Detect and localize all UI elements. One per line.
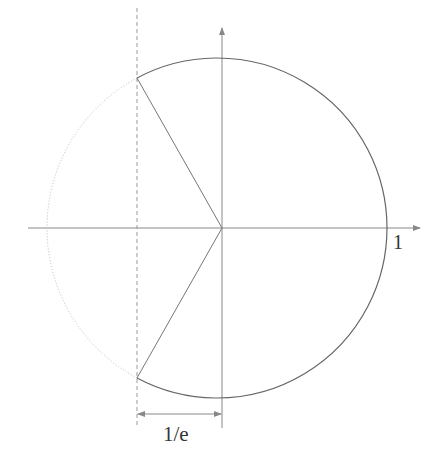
upper-radius	[137, 78, 222, 228]
label-inv-e: 1/e	[163, 424, 189, 445]
label-one: 1	[393, 232, 403, 252]
unit-circle-diagram	[0, 0, 438, 467]
lower-radius	[137, 228, 222, 378]
